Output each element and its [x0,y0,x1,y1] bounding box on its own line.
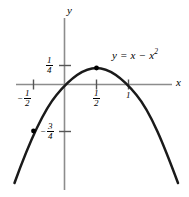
y-tick-neg-three-quarters-numerator: 3 [47,122,54,131]
point-neg-half [31,129,36,134]
point-vertex [94,66,99,71]
y-tick-neg-three-quarters-sign: − [40,127,46,136]
x-tick-neg-half-sign: − [17,94,23,103]
x-tick-half-denominator: 2 [93,98,100,108]
y-tick-quarter-numerator: 1 [46,56,53,65]
x-axis-label: x [176,77,181,88]
x-tick-neg-half-numerator: 1 [24,89,31,98]
figure-parabola: y x y = x − x2 1 4 − 3 4 − 1 2 1 2 1 [0,0,189,197]
x-tick-half-numerator: 1 [93,89,100,98]
y-axis-label: y [67,5,72,16]
y-tick-label-neg-three-quarters: − 3 4 [40,122,54,141]
x-tick-neg-half-denominator: 2 [24,98,31,108]
y-tick-label-quarter: 1 4 [46,56,53,75]
curve-equation-label: y = x − x2 [112,48,158,61]
x-tick-label-neg-half: − 1 2 [17,89,31,108]
y-tick-neg-three-quarters-denominator: 4 [47,131,54,141]
y-tick-quarter-denominator: 4 [46,65,53,75]
x-tick-label-one: 1 [126,90,131,100]
x-tick-label-half: 1 2 [93,89,100,108]
curve-equation-text: y = x − x [112,49,154,61]
curve-equation-exponent: 2 [154,47,158,56]
